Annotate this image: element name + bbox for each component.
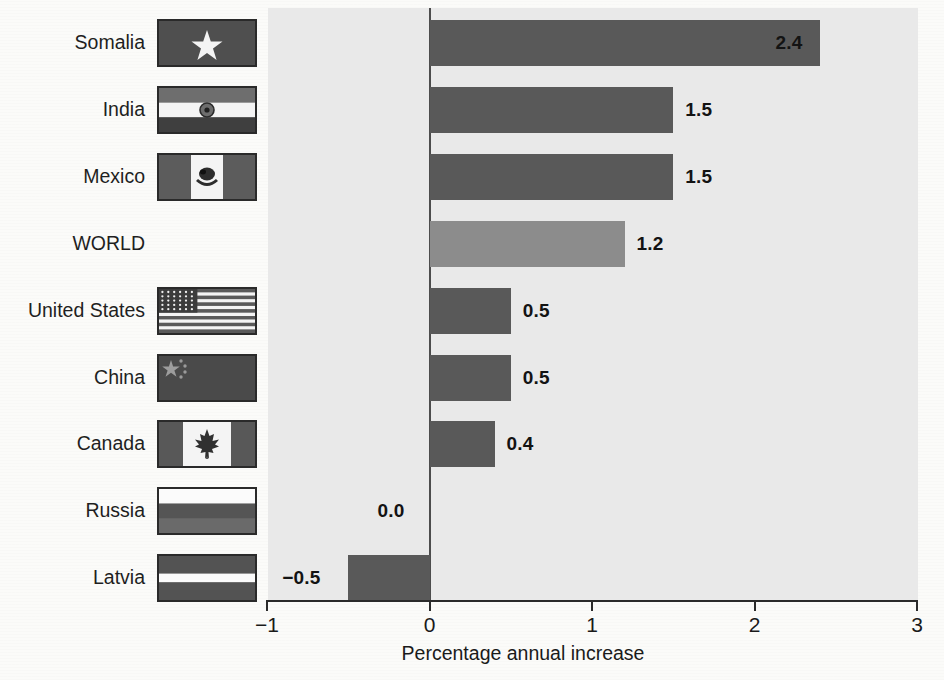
bar-india[interactable]	[430, 87, 674, 133]
category-label-india: India	[0, 100, 145, 120]
bar-canada[interactable]	[430, 421, 495, 467]
bar-value-canada: 0.4	[507, 434, 534, 453]
bar-value-united-states: 0.5	[523, 301, 550, 320]
x-tick-4	[916, 600, 918, 611]
flag-latvia-icon	[157, 554, 257, 602]
bar-world[interactable]	[430, 221, 625, 267]
category-label-russia: Russia	[0, 501, 145, 521]
bar-latvia[interactable]	[348, 555, 429, 601]
bar-somalia[interactable]	[430, 20, 820, 66]
x-tick-label-0: −1	[255, 614, 279, 635]
x-tick-label-3: 2	[749, 614, 761, 635]
category-label-latvia: Latvia	[0, 568, 145, 588]
category-label-china: China	[0, 368, 145, 388]
x-axis-title: Percentage annual increase	[0, 644, 944, 664]
bar-united-states[interactable]	[430, 288, 511, 334]
flag-china-icon	[157, 354, 257, 402]
plot-area: 2.41.51.51.20.50.50.40.0−0.5	[268, 8, 918, 600]
flag-mexico-icon	[157, 153, 257, 201]
flag-canada-icon	[157, 420, 257, 468]
category-label-world: WORLD	[0, 234, 145, 254]
bar-mexico[interactable]	[430, 154, 674, 200]
bar-value-somalia: 2.4	[776, 33, 803, 52]
flag-india-icon	[157, 86, 257, 134]
bar-chart-figure: 2.41.51.51.20.50.50.40.0−0.5 Somalia Ind…	[0, 0, 944, 680]
bar-value-latvia: −0.5	[282, 568, 320, 587]
x-tick-0	[266, 600, 268, 611]
flag-russia-icon	[157, 487, 257, 535]
category-label-somalia: Somalia	[0, 33, 145, 53]
x-tick-2	[591, 600, 593, 611]
bar-value-mexico: 1.5	[685, 167, 712, 186]
bar-china[interactable]	[430, 355, 511, 401]
bar-value-india: 1.5	[685, 100, 712, 119]
bar-value-world: 1.2	[637, 234, 664, 253]
flag-somalia-icon	[157, 19, 257, 67]
x-tick-3	[754, 600, 756, 611]
bar-value-china: 0.5	[523, 368, 550, 387]
bar-value-russia: 0.0	[378, 501, 405, 520]
x-tick-label-1: 0	[424, 614, 436, 635]
category-label-united-states: United States	[0, 301, 145, 321]
x-axis-title-label: Percentage annual increase	[402, 644, 645, 664]
x-tick-label-2: 1	[586, 614, 598, 635]
flag-united-states-icon	[157, 287, 257, 335]
category-label-canada: Canada	[0, 434, 145, 454]
category-label-mexico: Mexico	[0, 167, 145, 187]
x-tick-1	[429, 600, 431, 611]
ghost-text	[8, 6, 12, 23]
x-tick-label-4: 3	[911, 614, 923, 635]
